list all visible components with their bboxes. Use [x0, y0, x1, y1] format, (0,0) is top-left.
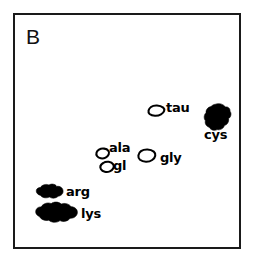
figure-panel: B tau cys ala gl gly arg	[0, 0, 256, 272]
spot-mark-arg	[35, 183, 65, 200]
spot-label-ala: ala	[109, 141, 130, 154]
spot-label-arg: arg	[66, 185, 90, 198]
spot-label-lys: lys	[81, 207, 101, 220]
panel-letter: B	[26, 26, 41, 47]
spot-mark-gly	[136, 148, 158, 165]
spot-mark-lys	[35, 201, 79, 224]
spot-label-gly: gly	[160, 151, 182, 164]
spot-label-cys: cys	[204, 128, 227, 141]
spot-label-tau: tau	[166, 101, 190, 114]
spot-label-gl: gl	[113, 159, 126, 172]
spot-mark-tau	[147, 104, 167, 118]
